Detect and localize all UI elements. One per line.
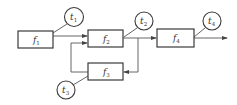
block-diagram: f1 f2 f3 f4 t1 t2 t3 t4 [0, 0, 237, 105]
block-f4: f4 [157, 29, 194, 47]
node-t4: t4 [203, 12, 221, 30]
block-f2: f2 [88, 30, 123, 47]
edge-f2-f3 [124, 38, 138, 72]
node-t2: t2 [135, 12, 153, 30]
tie-t1 [53, 24, 67, 33]
edge-f3-f2 [71, 43, 88, 72]
tie-t4 [194, 28, 205, 37]
block-f1: f1 [18, 31, 53, 48]
block-f3: f3 [88, 63, 123, 80]
node-t3: t3 [57, 81, 75, 99]
connectors [53, 24, 227, 85]
tie-t2 [124, 28, 137, 37]
tie-t3 [73, 76, 88, 85]
node-t1: t1 [65, 8, 84, 27]
